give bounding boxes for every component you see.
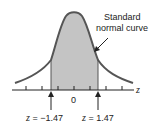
- right-marker-value: 1.47: [96, 113, 114, 123]
- axis-label: z: [136, 85, 140, 95]
- right-marker-eq: =: [86, 113, 96, 123]
- right-arrow-icon: [95, 91, 101, 110]
- curve-title-line2: normal curve: [96, 23, 148, 33]
- callout-arrow-icon: [94, 38, 108, 52]
- left-marker-value: −1.47: [40, 113, 63, 123]
- shaded-area: [51, 12, 98, 90]
- right-marker-label: z = 1.47: [82, 113, 114, 123]
- left-marker-eq: =: [30, 113, 40, 123]
- left-arrow-icon: [48, 91, 54, 110]
- left-marker-label: z = −1.47: [26, 113, 63, 123]
- axis-ticks: [26, 86, 122, 90]
- curve-title-line1: Standard: [104, 12, 141, 22]
- center-label: 0: [71, 95, 76, 105]
